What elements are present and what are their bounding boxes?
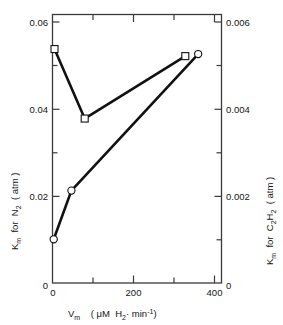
series-km-c2h2-line bbox=[54, 54, 198, 239]
left-axis-title: Km for N2 ( atm ) bbox=[9, 173, 22, 250]
bottom-axis-ticks bbox=[93, 276, 215, 284]
bottom-min: min bbox=[132, 308, 147, 319]
bottom-micromolar: μM bbox=[97, 308, 110, 319]
right-axis-title: Km for C2H2 ( atm ) bbox=[264, 177, 277, 265]
y2tick-label-0002: 0.002 bbox=[226, 191, 250, 202]
xtick-label-200: 200 bbox=[126, 287, 142, 298]
chart-svg: 0.06 0.04 0.02 0 0.006 0.004 0.002 0 0 2… bbox=[0, 0, 283, 325]
bottom-spacer-1 bbox=[80, 308, 91, 319]
data-point-square bbox=[51, 46, 58, 53]
left-axis-title-text: Km for N2 ( atm ) bbox=[9, 173, 22, 250]
y2tick-label-0004: 0.004 bbox=[226, 104, 250, 115]
data-point-square bbox=[182, 53, 189, 60]
right-axis-title-text: Km for C2H2 ( atm ) bbox=[264, 177, 277, 265]
y2tick-label-0: 0 bbox=[226, 280, 231, 291]
left-tick-labels: 0.06 0.04 0.02 0 bbox=[30, 17, 49, 291]
right-for: for bbox=[264, 236, 275, 247]
y2tick-label-0006: 0.006 bbox=[226, 17, 250, 28]
ytick-label-004: 0.04 bbox=[30, 104, 49, 115]
bottom-close-paren: ) bbox=[153, 308, 156, 319]
right-tick-labels: 0.006 0.004 0.002 0 bbox=[226, 17, 250, 291]
bottom-tick-labels: 0 200 400 bbox=[50, 287, 222, 298]
top-axis-ticks bbox=[93, 15, 215, 23]
series-km-c2h2 bbox=[50, 50, 202, 242]
xtick-label-400: 400 bbox=[207, 287, 223, 298]
ytick-label-002: 0.02 bbox=[30, 191, 49, 202]
left-for: for bbox=[9, 221, 20, 232]
bottom-axis-title-text: Vm ( μM H2· min-1) bbox=[68, 308, 157, 321]
bottom-axis-title: Vm ( μM H2· min-1) bbox=[68, 308, 157, 321]
data-point-circle bbox=[50, 236, 57, 243]
chart-figure: 0.06 0.04 0.02 0 0.006 0.004 0.002 0 0 2… bbox=[0, 0, 283, 325]
right-axis-ticks bbox=[215, 22, 222, 240]
ytick-label-0: 0 bbox=[43, 280, 48, 291]
right-units: ( atm ) bbox=[264, 177, 275, 204]
data-point-square bbox=[81, 115, 88, 122]
data-point-circle bbox=[68, 187, 75, 194]
xtick-label-0: 0 bbox=[50, 287, 55, 298]
data-point-circle bbox=[195, 50, 202, 57]
left-units: ( atm ) bbox=[9, 173, 20, 200]
series-km-n2-line bbox=[55, 49, 186, 119]
series-km-n2 bbox=[51, 46, 189, 123]
ytick-label-006: 0.06 bbox=[30, 17, 49, 28]
